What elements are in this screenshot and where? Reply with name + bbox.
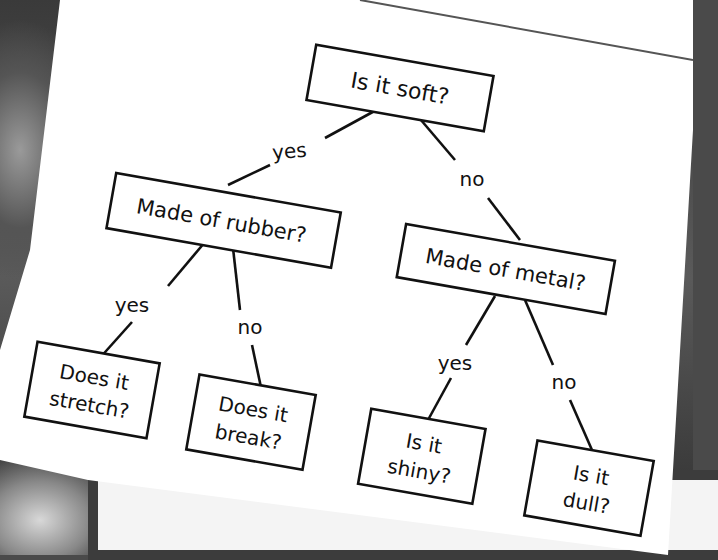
edge-label-metal-yes: yes <box>438 351 473 375</box>
edge-label-metal-no: no <box>552 370 577 394</box>
edge-label-root-no: no <box>460 167 485 191</box>
edge-label-rubber-no: no <box>238 315 263 339</box>
edge-label-rubber-yes: yes <box>115 293 150 317</box>
edge-label-root-yes: yes <box>271 138 308 165</box>
